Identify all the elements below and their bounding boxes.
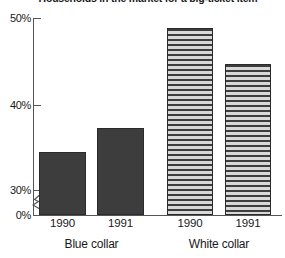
x-label-bar-0: 1990 [39,217,86,230]
y-tick-label-0-wrap: 0% [0,210,31,221]
y-tick-label-50-wrap: 50% [0,13,31,24]
y-tick-label-50: 50% [1,13,31,24]
chart-title: Households in the market for a big-ticke… [14,0,282,4]
bar-white-collar-1991 [225,64,271,215]
bar-white-collar-1990 [167,28,213,215]
group-label-white-collar: White collar [167,237,271,251]
group-label-blue-collar: Blue collar [39,237,144,251]
x-label-bar-3: 1991 [225,217,271,230]
bar-blue-collar-1990 [39,152,86,215]
y-tick-label-30-wrap: 30% [0,185,31,196]
y-tick-label-0: 0% [1,210,31,221]
bar-chart: Households in the market for a big-ticke… [0,0,285,258]
y-tick-label-40: 40% [1,100,31,111]
y-tick-label-40-wrap: 40% [0,100,31,111]
bar-blue-collar-1991 [97,128,144,215]
bars-layer [33,18,282,215]
x-label-bar-1: 1991 [97,217,144,230]
x-label-bar-2: 1990 [167,217,213,230]
y-tick-label-30: 30% [1,185,31,196]
